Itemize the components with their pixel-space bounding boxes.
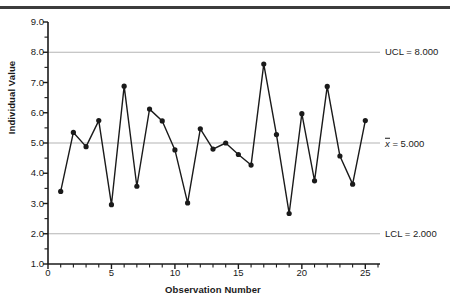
limit-label-center: x = 5.000 <box>385 138 424 149</box>
x-tick-label: 15 <box>223 268 253 278</box>
y-axis-tick-labels: 1.02.03.04.05.06.07.08.09.0 <box>14 0 44 302</box>
data-point <box>96 118 101 123</box>
data-point <box>325 84 330 89</box>
xbar-symbol: x <box>385 138 390 149</box>
data-point <box>185 200 190 205</box>
data-point <box>236 152 241 157</box>
data-point <box>210 146 215 151</box>
data-point <box>350 182 355 187</box>
data-point <box>198 126 203 131</box>
data-point <box>83 144 88 149</box>
data-point <box>248 162 253 167</box>
y-tick-label: 8.0 <box>18 48 44 58</box>
x-axis-title: Observation Number <box>48 284 378 295</box>
x-tick-label: 5 <box>96 268 126 278</box>
y-tick-label: 7.0 <box>18 78 44 88</box>
x-tick-label: 25 <box>350 268 380 278</box>
y-tick-label: 3.0 <box>18 199 44 209</box>
data-point <box>223 140 228 145</box>
data-point <box>172 147 177 152</box>
y-tick-label: 9.0 <box>18 17 44 27</box>
x-tick-label: 10 <box>160 268 190 278</box>
data-point <box>109 202 114 207</box>
data-point <box>147 107 152 112</box>
data-point <box>312 178 317 183</box>
data-point <box>122 84 127 89</box>
reference-lines <box>48 52 380 234</box>
data-point <box>299 111 304 116</box>
y-tick-label: 6.0 <box>18 108 44 118</box>
data-point <box>337 153 342 158</box>
limit-label-lcl: LCL = 2.000 <box>385 229 437 239</box>
plot-area <box>0 0 450 302</box>
data-point <box>261 61 266 66</box>
top-rule-divider <box>0 6 450 9</box>
data-point <box>363 118 368 123</box>
limit-label-ucl: UCL = 8.000 <box>385 48 438 58</box>
data-point <box>71 130 76 135</box>
data-series-line <box>61 64 366 213</box>
data-point <box>58 189 63 194</box>
x-tick-label: 20 <box>287 268 317 278</box>
data-point <box>160 118 165 123</box>
data-point <box>274 132 279 137</box>
control-chart: Individual Value Observation Number 1.02… <box>0 0 450 302</box>
y-tick-label: 5.0 <box>18 138 44 148</box>
x-tick-label: 0 <box>33 268 63 278</box>
y-tick-label: 4.0 <box>18 169 44 179</box>
data-point <box>287 211 292 216</box>
data-point-markers <box>58 61 368 216</box>
y-tick-label: 2.0 <box>18 229 44 239</box>
data-point <box>134 184 139 189</box>
